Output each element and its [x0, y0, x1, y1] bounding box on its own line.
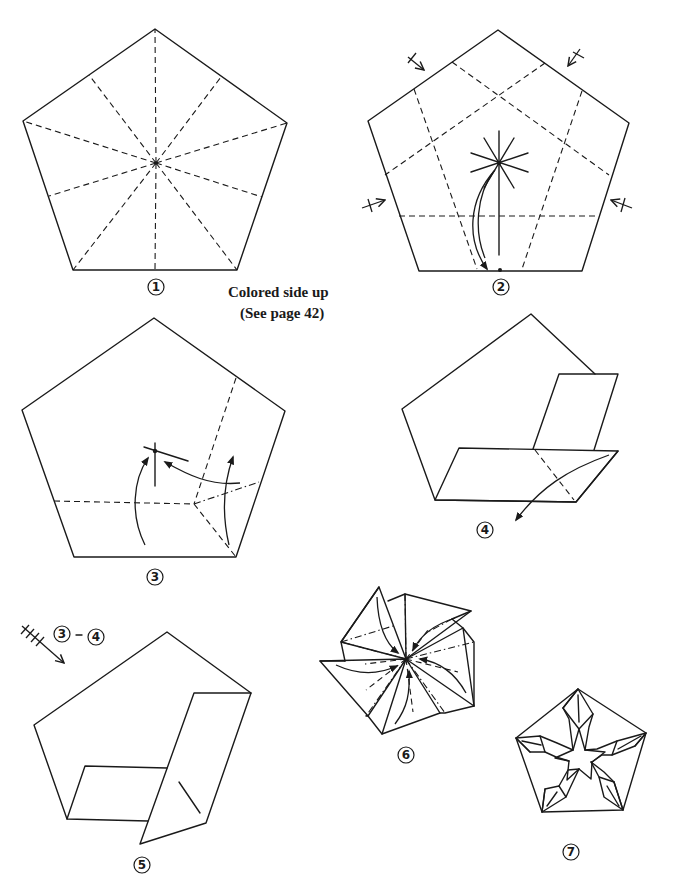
- step-7-diagram: [516, 689, 646, 812]
- svg-text:4: 4: [481, 523, 489, 537]
- svg-text:1: 1: [152, 280, 160, 294]
- step-7-label: 7: [563, 844, 579, 860]
- svg-text:3: 3: [151, 570, 159, 584]
- turn-over-icon: [362, 49, 632, 212]
- caption-see-page: (See page 42): [240, 305, 324, 322]
- svg-text:7: 7: [567, 845, 575, 859]
- step-4-diagram: [402, 314, 618, 520]
- svg-text:6: 6: [402, 748, 410, 762]
- repeat-steps-note: 3 4: [21, 625, 104, 663]
- step-6-label: 6: [398, 747, 414, 763]
- step-3-diagram: [22, 318, 285, 557]
- svg-text:5: 5: [138, 858, 146, 872]
- step-2-label: 2: [493, 279, 509, 295]
- step-6-diagram: [320, 587, 474, 734]
- caption-colored-side-up: Colored side up: [228, 284, 329, 301]
- svg-text:4: 4: [92, 630, 100, 644]
- step-2-diagram: [362, 30, 632, 272]
- step-1-label: 1: [148, 279, 164, 295]
- origami-diagram-canvas: 1: [0, 0, 673, 876]
- svg-text:3: 3: [58, 627, 66, 641]
- svg-text:2: 2: [497, 280, 505, 294]
- step-1-diagram: [23, 29, 287, 270]
- step-5-label: 5: [134, 857, 150, 873]
- step-3-label: 3: [147, 569, 163, 585]
- step-5-diagram: [34, 632, 251, 844]
- step-4-label: 4: [477, 522, 493, 538]
